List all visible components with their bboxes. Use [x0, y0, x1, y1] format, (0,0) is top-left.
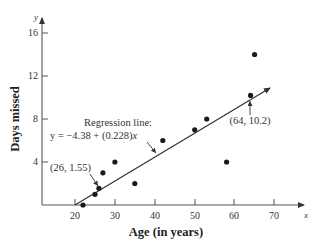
x-tick-label: 20	[70, 210, 80, 221]
point-pointer-26	[90, 174, 98, 186]
regression-line	[75, 88, 270, 205]
x-tick-label: 60	[229, 210, 239, 221]
x-tick-label: 50	[190, 210, 200, 221]
data-point	[112, 159, 117, 164]
x-tick-label: 30	[110, 210, 120, 221]
x-ticks: 20 30 40 50 60 70	[70, 199, 279, 221]
regression-equation: y = −4.38 + (0.228)	[50, 130, 133, 142]
regression-label-line2: y = −4.38 + (0.228)x	[50, 130, 138, 142]
regression-label-line1: Regression line:	[84, 117, 152, 128]
data-point	[252, 52, 257, 57]
regression-equation-var: x	[132, 130, 138, 141]
y-axis-title: Days missed	[8, 86, 22, 152]
data-point	[160, 138, 165, 143]
y-tick-label: 8	[33, 113, 38, 124]
data-point	[204, 116, 209, 121]
data-point	[100, 170, 105, 175]
data-point	[224, 159, 229, 164]
y-tick-label: 4	[33, 156, 38, 167]
data-point	[92, 192, 97, 197]
x-tick-label: 70	[269, 210, 279, 221]
y-tick-label: 16	[28, 27, 38, 38]
y-tick-label: 12	[28, 70, 38, 81]
data-point	[80, 202, 85, 207]
data-point	[96, 186, 101, 191]
point-label-26: (26, 1.55)	[50, 162, 92, 174]
x-axis-var: x	[303, 210, 308, 220]
y-axis-var: y	[33, 12, 38, 22]
x-axis-title: Age (in years)	[129, 225, 203, 239]
regression-pointer	[147, 142, 156, 153]
point-label-64: (64, 10.2)	[229, 115, 271, 127]
x-tick-label: 40	[150, 210, 160, 221]
y-ticks: 4 8 12 16	[28, 27, 48, 167]
data-point	[192, 127, 197, 132]
data-point	[248, 93, 253, 98]
scatter-chart: y x 4 8 12 16 20 30 40 50 60 70 Age (in …	[0, 0, 318, 242]
data-point	[132, 181, 137, 186]
